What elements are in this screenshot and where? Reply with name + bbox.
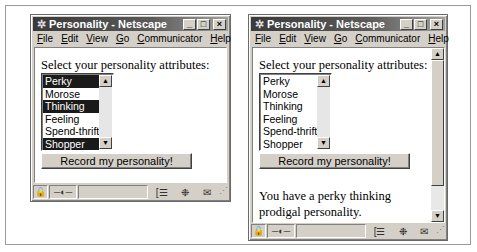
security-lock-icon[interactable]: 🔓 bbox=[251, 224, 266, 238]
option-spend-thrift[interactable]: Spend-thrift bbox=[43, 125, 99, 138]
personality-listbox[interactable]: Perky Morose Thinking Feeling Spend-thri… bbox=[259, 73, 332, 151]
option-spend-thrift[interactable]: Spend-thrift bbox=[261, 125, 317, 138]
page-scrollbar[interactable]: ▲ ▼ bbox=[431, 48, 444, 222]
resize-grip-icon[interactable]: ⋰ bbox=[435, 225, 445, 237]
menu-view[interactable]: View bbox=[300, 32, 330, 46]
prompt-text: Select your personality attributes: bbox=[259, 58, 427, 73]
minimize-button[interactable]: _ bbox=[400, 19, 413, 30]
component-bar-icon[interactable]: [☰ bbox=[374, 226, 386, 237]
navigator-icon[interactable]: ❉ bbox=[181, 187, 189, 198]
menu-communicator[interactable]: Communicator bbox=[133, 32, 206, 46]
browser-window-before: ✲ Personality - Netscape _ □ × File Edit… bbox=[30, 14, 231, 202]
option-thinking[interactable]: Thinking bbox=[43, 100, 99, 113]
close-button[interactable]: × bbox=[213, 19, 226, 30]
scroll-down-icon[interactable]: ▼ bbox=[317, 137, 330, 149]
menu-help[interactable]: Help bbox=[206, 32, 235, 46]
scroll-up-icon[interactable]: ▲ bbox=[317, 75, 330, 87]
mail-icon[interactable]: ✉ bbox=[420, 226, 428, 237]
progress-bar bbox=[296, 224, 366, 238]
scroll-down-icon[interactable]: ▼ bbox=[99, 137, 112, 149]
option-shopper[interactable]: Shopper bbox=[261, 138, 317, 151]
title-bar[interactable]: ✲ Personality - Netscape _ □ × bbox=[33, 17, 228, 31]
component-bar: [☰ ❉ ✉ bbox=[149, 187, 218, 198]
menu-view[interactable]: View bbox=[82, 32, 112, 46]
menu-edit[interactable]: Edit bbox=[57, 32, 82, 46]
page-content: Select your personality attributes: Perk… bbox=[34, 47, 227, 183]
option-morose[interactable]: Morose bbox=[261, 88, 317, 101]
prompt-text: Select your personality attributes: bbox=[41, 58, 209, 73]
option-feeling[interactable]: Feeling bbox=[43, 113, 99, 126]
listbox-scrollbar[interactable]: ▲ ▼ bbox=[317, 75, 330, 149]
scroll-up-icon[interactable]: ▲ bbox=[99, 75, 112, 87]
record-personality-button[interactable]: Record my personality! bbox=[259, 153, 410, 169]
netscape-logo-icon: ✲ bbox=[35, 18, 47, 30]
scroll-down-icon[interactable]: ▼ bbox=[431, 210, 444, 222]
browser-window-after: ✲ Personality - Netscape _ □ × File Edit… bbox=[248, 14, 448, 241]
option-perky[interactable]: Perky bbox=[43, 75, 99, 88]
title-bar[interactable]: ✲ Personality - Netscape _ □ × bbox=[251, 17, 445, 31]
maximize-button[interactable]: □ bbox=[414, 19, 427, 30]
menu-communicator[interactable]: Communicator bbox=[351, 32, 424, 46]
netscape-logo-icon: ✲ bbox=[253, 18, 265, 30]
connection-icon: ─◐─ bbox=[49, 185, 77, 199]
maximize-button[interactable]: □ bbox=[197, 19, 210, 30]
option-feeling[interactable]: Feeling bbox=[261, 113, 317, 126]
record-personality-button[interactable]: Record my personality! bbox=[41, 153, 192, 169]
component-bar-icon[interactable]: [☰ bbox=[156, 187, 168, 198]
menu-go[interactable]: Go bbox=[112, 32, 133, 46]
menu-bar: File Edit View Go Communicator Help bbox=[33, 32, 228, 46]
progress-bar bbox=[78, 185, 148, 199]
result-text: You have a perky thinking prodigal perso… bbox=[259, 188, 434, 220]
personality-listbox[interactable]: Perky Morose Thinking Feeling Spend-thri… bbox=[41, 73, 114, 151]
window-title: Personality - Netscape bbox=[49, 17, 182, 31]
security-lock-icon[interactable]: 🔓 bbox=[33, 185, 48, 199]
menu-file[interactable]: File bbox=[33, 32, 57, 46]
component-bar: [☰ ❉ ✉ bbox=[367, 226, 435, 237]
menu-go[interactable]: Go bbox=[330, 32, 351, 46]
mail-icon[interactable]: ✉ bbox=[203, 187, 211, 198]
close-button[interactable]: × bbox=[430, 19, 443, 30]
connection-icon: ─◐─ bbox=[267, 224, 295, 238]
menu-file[interactable]: File bbox=[251, 32, 275, 46]
menu-bar: File Edit View Go Communicator Help bbox=[251, 32, 445, 46]
navigator-icon[interactable]: ❉ bbox=[399, 226, 407, 237]
listbox-scrollbar[interactable]: ▲ ▼ bbox=[99, 75, 112, 149]
option-perky[interactable]: Perky bbox=[261, 75, 317, 88]
option-shopper[interactable]: Shopper bbox=[43, 138, 99, 151]
scroll-up-icon[interactable]: ▲ bbox=[431, 48, 444, 60]
menu-help[interactable]: Help bbox=[424, 32, 453, 46]
option-thinking[interactable]: Thinking bbox=[261, 100, 317, 113]
menu-edit[interactable]: Edit bbox=[275, 32, 300, 46]
minimize-button[interactable]: _ bbox=[183, 19, 196, 30]
option-morose[interactable]: Morose bbox=[43, 88, 99, 101]
page-content: Select your personality attributes: Perk… bbox=[252, 47, 445, 223]
status-bar: 🔓 ─◐─ [☰ ❉ ✉ ⋰ bbox=[33, 184, 228, 200]
window-title: Personality - Netscape bbox=[267, 17, 399, 31]
status-bar: 🔓 ─◐─ [☰ ❉ ✉ ⋰ bbox=[251, 223, 445, 239]
resize-grip-icon[interactable]: ⋰ bbox=[218, 186, 228, 198]
scrollbar-thumb[interactable] bbox=[431, 60, 444, 186]
